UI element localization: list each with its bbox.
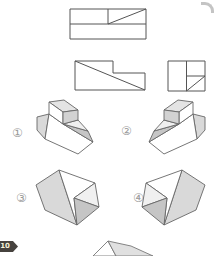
worksheet-page: ① ② ③ ④ <box>0 0 214 256</box>
question-number-badge: 10 <box>0 241 18 252</box>
solid-2-label: ② <box>121 124 132 138</box>
top-view-figure <box>69 8 147 40</box>
solid-2-figure <box>145 99 207 157</box>
question-number-text: 10 <box>0 242 10 250</box>
solid-1-figure <box>35 99 97 157</box>
solid-3-label: ③ <box>16 191 27 205</box>
side-view-figure <box>167 60 206 92</box>
rounded-corner-mark <box>201 2 214 13</box>
front-view-figure <box>74 60 146 91</box>
solid-1-label: ① <box>12 126 23 140</box>
partial-solid-figure <box>90 238 154 256</box>
solid-4-figure <box>140 168 207 228</box>
solid-3-figure <box>34 168 101 228</box>
